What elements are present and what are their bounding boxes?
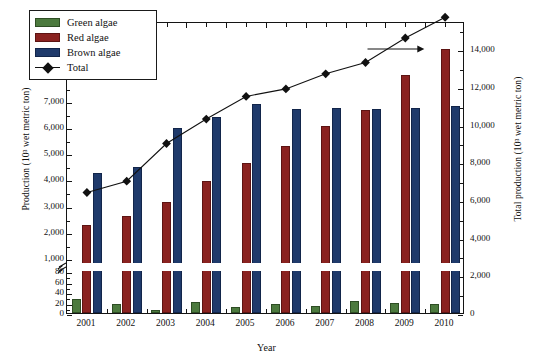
legend-item-green-algae: Green algae [35,15,150,30]
right-axis-arrowhead-icon [417,46,424,53]
legend-label-green: Green algae [67,17,117,28]
y-right-tick-label: 2,000 [470,271,530,280]
legend-item-total: Total [35,60,150,75]
legend-swatch-red-icon [35,33,60,42]
total-marker-2007 [321,69,330,78]
x-tick-label-2010: 2010 [421,318,467,328]
legend-label-total: Total [67,62,88,73]
algae-production-chart: Production (10³ wet metric ton) Total pr… [0,0,533,364]
total-marker-2009 [401,34,410,43]
chart-legend: Green algae Red algae Brown algae Total [29,10,157,80]
y-right-tick-label: 14,000 [470,45,530,54]
y-left-tick-label: 80 [4,267,64,276]
legend-label-red: Red algae [67,32,109,43]
y-left-tick-label: 2,000 [4,228,64,237]
y-right-tick-label: 12,000 [470,83,530,92]
legend-swatch-green-icon [35,18,60,27]
y-left-tick-label: 20 [4,299,64,308]
axis-break-icon [57,256,75,276]
legend-item-red-algae: Red algae [35,30,150,45]
legend-label-brown: Brown algae [67,47,120,58]
y-left-tick-label: 7,000 [4,97,64,106]
tick-mark [67,315,72,316]
y-right-tick-label: 8,000 [470,158,530,167]
y-left-tick-label: 4,000 [4,175,64,184]
y-left-tick-label: 40 [4,288,64,297]
y-left-tick-label: 0 [4,309,64,318]
total-marker-2006 [282,84,291,93]
total-marker-2004 [202,115,211,124]
legend-item-brown-algae: Brown algae [35,45,150,60]
total-marker-2010 [441,13,450,22]
y-right-tick-label: 0 [470,309,530,318]
y-left-tick-label: 5,000 [4,149,64,158]
y-left-tick-label: 3,000 [4,202,64,211]
y-right-tick-label: 4,000 [470,234,530,243]
y-left-tick-label: 6,000 [4,123,64,132]
y-left-tick-label: 60 [4,278,64,287]
tick-mark [458,315,463,316]
y-left-tick-label: 1,000 [4,254,64,263]
y-right-tick-label: 6,000 [470,196,530,205]
x-axis-title: Year [0,342,533,353]
total-marker-2005 [242,92,251,101]
total-marker-2008 [361,58,370,67]
total-marker-2001 [83,188,92,197]
legend-line-diamond-icon [35,63,60,72]
legend-swatch-brown-icon [35,48,60,57]
y-right-tick-label: 10,000 [470,121,530,130]
